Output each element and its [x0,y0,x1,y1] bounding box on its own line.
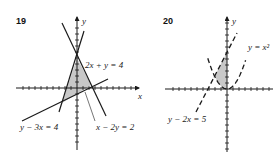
graph-19: y x 2x + y = 4 x − 2y = 2 y − 3x = 4 [16,16,142,150]
equation-label-y-minus-2x: y − 2x = 5 [167,114,207,124]
y-axis-label-19: y [81,16,86,26]
equation-label-y-minus-3x: y − 3x = 4 [19,122,59,132]
equation-label-parabola: y = x² [247,42,270,52]
graph-20: y y = x² y − 2x = 5 [165,16,273,152]
equation-label-2x-plus-y: 2x + y = 4 [85,60,124,70]
leader-x-minus-2y [85,92,95,121]
graphs: y x 2x + y = 4 x − 2y = 2 y − 3x = 4 y y… [0,0,273,156]
x-axis-label-19: x [137,91,142,101]
equation-label-x-minus-2y: x − 2y = 2 [95,122,135,132]
shaded-region-20 [214,52,228,89]
line-x-minus-2y-2 [22,79,108,121]
line-y-minus-2x-5 [196,33,237,112]
y-axis-label-20: y [231,16,236,26]
